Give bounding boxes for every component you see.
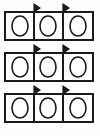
egg-icon[interactable]	[70, 57, 86, 77]
flag-marker-group	[34, 45, 69, 53]
flag-icon	[34, 4, 40, 12]
carton-row-1[interactable]	[0, 0, 100, 46]
flag-marker-group	[34, 86, 69, 94]
carton-row-3[interactable]	[0, 82, 100, 128]
egg-icon[interactable]	[12, 98, 28, 118]
carton-row-3-graphic	[0, 82, 100, 128]
carton-row-2[interactable]	[0, 41, 100, 87]
egg-icon[interactable]	[12, 16, 28, 36]
egg-icon[interactable]	[40, 98, 56, 118]
flag-icon	[34, 86, 40, 94]
egg-icon[interactable]	[12, 57, 28, 77]
egg-icon[interactable]	[70, 16, 86, 36]
flag-icon	[63, 4, 69, 12]
egg-icon[interactable]	[40, 16, 56, 36]
flag-icon	[63, 45, 69, 53]
flag-marker-group	[34, 4, 69, 12]
egg-icon[interactable]	[40, 57, 56, 77]
egg-icon[interactable]	[70, 98, 86, 118]
flag-icon	[34, 45, 40, 53]
carton-row-1-graphic	[0, 0, 100, 46]
diagram-canvas	[0, 0, 100, 136]
flag-icon	[63, 86, 69, 94]
carton-row-2-graphic	[0, 41, 100, 87]
